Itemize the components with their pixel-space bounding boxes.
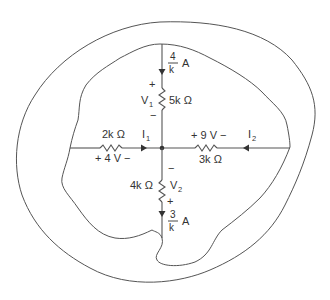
top-current-numerator: 4 [170,51,176,62]
top-current-denominator: k [169,64,175,75]
right-voltage-label: + 9 V − [191,129,226,141]
v2-sub: 2 [178,185,182,194]
bottom-current-numerator: 3 [170,209,176,220]
resistor-2k-label: 2k Ω [102,128,125,140]
resistor-3k-label: 3k Ω [199,153,222,165]
v2-minus: − [168,162,174,174]
v1-label: V [141,94,149,106]
resistor-5k [159,88,165,110]
i2-label: I [248,128,251,140]
resistor-5k-label: 5k Ω [169,94,192,106]
arrow-down-icon [159,69,166,75]
i1-label: I [142,128,145,140]
v1-minus: − [150,109,156,121]
arrow-right-icon [141,145,147,152]
resistor-3k [195,145,217,151]
arrow-down-icon [159,211,166,217]
bottom-current-unit: A [182,215,190,227]
left-voltage-label: + 4 V − [95,152,130,164]
outer-surface [16,22,315,282]
circuit-diagram: 4 k A + V 1 5k Ω − 2k Ω I 1 + 4 V − + 9 … [0,0,330,300]
i1-sub: 1 [146,134,150,143]
v2-plus: + [167,195,173,207]
top-current-unit: A [182,57,190,69]
resistor-2k [100,145,122,151]
v1-plus: + [149,78,155,90]
arrow-left-icon [243,145,249,152]
v1-sub: 1 [149,100,153,109]
resistor-4k [159,180,165,202]
v2-label: V [170,179,178,191]
i2-sub: 2 [252,134,256,143]
bottom-current-denominator: k [169,222,175,233]
resistor-4k-label: 4k Ω [130,179,153,191]
